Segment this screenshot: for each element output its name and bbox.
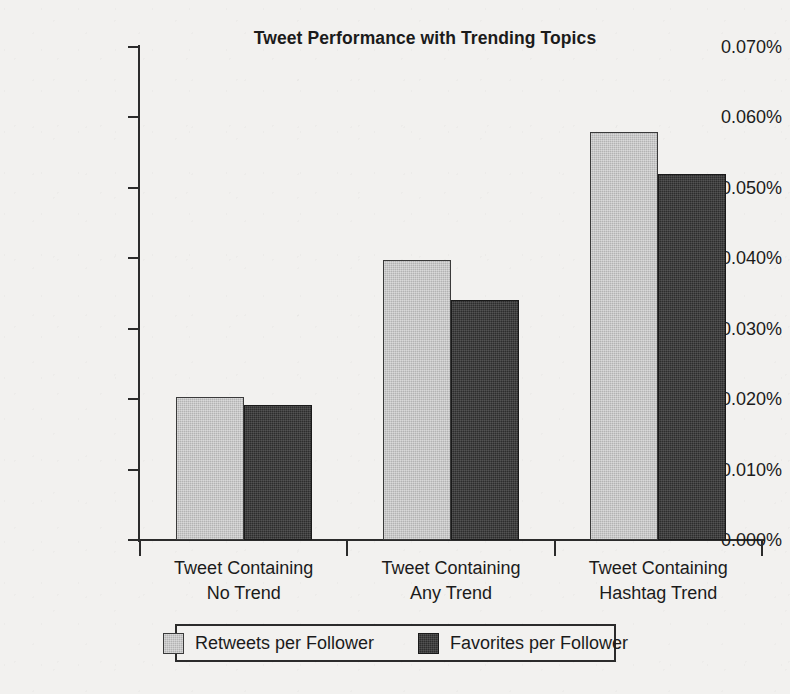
y-axis-tick (128, 187, 139, 189)
y-axis-tick (128, 539, 139, 541)
y-axis-tick (128, 257, 139, 259)
light-gray-swatch (163, 633, 184, 654)
y-axis-tick (128, 328, 139, 330)
x-axis-separator (761, 541, 763, 556)
x-axis-category-label: Tweet Containing Hashtag Trend (555, 556, 762, 606)
legend-label: Retweets per Follower (195, 633, 374, 654)
bar (590, 132, 658, 540)
y-axis-tick (128, 46, 139, 48)
x-axis-category-label: Tweet Containing No Trend (140, 556, 347, 606)
x-axis-category-label: Tweet Containing Any Trend (347, 556, 554, 606)
x-axis-separator (346, 541, 348, 556)
legend-entry[interactable]: Favorites per Follower (418, 633, 628, 654)
bar (658, 174, 726, 540)
bar (451, 300, 519, 540)
bar (383, 260, 451, 540)
legend-label: Favorites per Follower (450, 633, 628, 654)
y-axis-tick (128, 398, 139, 400)
y-axis-tick (128, 116, 139, 118)
dark-swatch (418, 633, 439, 654)
bar (176, 397, 244, 540)
x-axis-separator (139, 541, 141, 556)
bar (244, 405, 312, 540)
legend-entry[interactable]: Retweets per Follower (163, 633, 374, 654)
plot-area (140, 47, 762, 540)
x-axis-separator (554, 541, 556, 556)
bar-chart: Tweet Performance with Trending Topics 0… (0, 0, 790, 694)
y-axis-tick (128, 469, 139, 471)
chart-legend: Retweets per FollowerFavorites per Follo… (175, 624, 616, 662)
